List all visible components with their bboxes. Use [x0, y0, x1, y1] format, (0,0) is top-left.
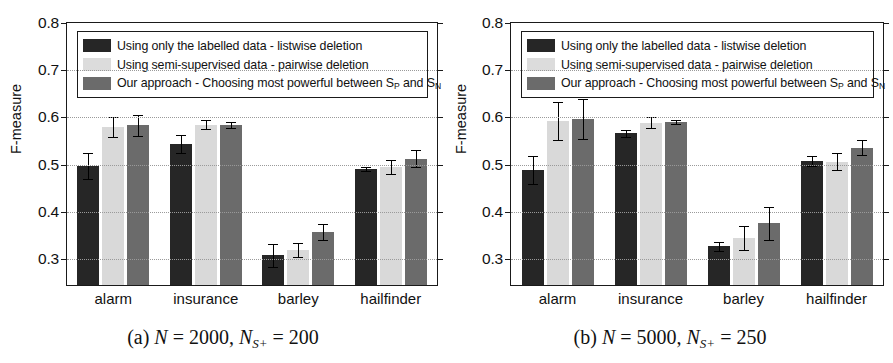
caption-a-ns-value: = 200 [273, 326, 319, 348]
errorbar-cap-alarm-series2-high [133, 115, 143, 116]
gridline-y-0.7 [511, 70, 883, 71]
errorbar-cap-hailfinder-series1-low [832, 170, 842, 171]
errorbar-alarm-series0 [88, 153, 89, 179]
errorbar-cap-alarm-series2-low [578, 139, 588, 140]
errorbar-cap-barley-series1-high [739, 226, 749, 227]
gridline-y-0.6 [67, 117, 437, 118]
y-axis-label-0.8: 0.8 [482, 14, 503, 32]
errorbar-barley-series1 [744, 226, 745, 251]
errorbar-cap-barley-series2-low [764, 240, 774, 241]
errorbar-cap-insurance-series2-high [671, 120, 681, 121]
bar-insurance-series1 [640, 123, 662, 285]
gridline-y-0.5 [67, 165, 437, 166]
y-axis-label-0.8: 0.8 [38, 14, 59, 32]
errorbar-cap-alarm-series1-low [108, 137, 118, 138]
bar-barley-series0 [708, 246, 730, 285]
x-axis-label-hailfinder: hailfinder [806, 290, 867, 307]
errorbar-cap-insurance-series2-high [226, 122, 236, 123]
caption-b-ns-value: = 250 [720, 326, 766, 348]
bar-hailfinder-series1 [380, 167, 402, 285]
legend-b: Using only the labelled data - listwise … [521, 31, 874, 98]
bar-alarm-series2 [127, 125, 149, 285]
errorbar-cap-hailfinder-series1-high [386, 160, 396, 161]
legend-label-2-b: Our approach - Choosing most powerful be… [561, 76, 885, 91]
gridline-y-0.7 [67, 70, 437, 71]
y-axis-label-0.5: 0.5 [38, 156, 59, 174]
errorbar-cap-hailfinder-series0-low [807, 166, 817, 167]
errorbar-cap-insurance-series1-low [646, 128, 656, 129]
gridline-y-0.4 [511, 212, 883, 213]
legend-swatch-1-b [527, 58, 555, 71]
errorbar-cap-insurance-series0-high [621, 130, 631, 131]
y-tick-0.4 [505, 212, 511, 213]
bar-insurance-series2 [665, 122, 687, 285]
caption-a-ns-symbol: N [239, 326, 252, 348]
gridline-y-0.5 [511, 165, 883, 166]
bar-insurance-series0 [615, 133, 637, 285]
y-axis-label-0.6: 0.6 [482, 108, 503, 126]
x-axis-label-alarm: alarm [539, 290, 577, 307]
y-tick-0.5 [61, 165, 67, 166]
y-axis-label-0.4: 0.4 [38, 203, 59, 221]
caption-a: (a) N = 2000, NS+ = 200 [0, 326, 446, 352]
errorbar-cap-alarm-series0-low [528, 184, 538, 185]
legend-a: Using only the labelled data - listwise … [77, 31, 428, 98]
y-axis-label-0.6: 0.6 [38, 108, 59, 126]
y-axis-label-0.7: 0.7 [482, 61, 503, 79]
legend-swatch-2-b [527, 77, 555, 90]
caption-b: (b) N = 5000, NS+ = 250 [447, 326, 893, 352]
y-axis-label-0.7: 0.7 [38, 61, 59, 79]
caption-a-n-value: = 2000, [173, 326, 234, 348]
caption-a-prefix: (a) [127, 326, 149, 348]
errorbar-cap-insurance-series2-low [671, 124, 681, 125]
x-axis-label-barley: barley [723, 290, 764, 307]
errorbar-barley-series0 [273, 244, 274, 267]
y-tick-0.6 [61, 117, 67, 118]
y-tick-0.7 [505, 70, 511, 71]
plot-area-a: Using only the labelled data - listwise … [66, 22, 438, 286]
errorbar-cap-barley-series1-low [293, 257, 303, 258]
gridline-y-0.3 [67, 259, 437, 260]
errorbar-cap-insurance-series2-low [226, 128, 236, 129]
y-tick-0.5 [505, 165, 511, 166]
x-axis-label-alarm: alarm [94, 290, 132, 307]
caption-b-ns-symbol: N [687, 326, 700, 348]
errorbar-cap-barley-series2-low [318, 240, 328, 241]
errorbar-alarm-series2 [583, 99, 584, 140]
y-tick-0.8-right [883, 23, 889, 24]
errorbar-insurance-series1 [206, 120, 207, 129]
errorbar-cap-hailfinder-series0-low [361, 171, 371, 172]
legend-label-0-b: Using only the labelled data - listwise … [561, 39, 806, 53]
y-axis-label-0.5: 0.5 [482, 156, 503, 174]
legend-item-2-b: Our approach - Choosing most powerful be… [527, 74, 868, 93]
errorbar-barley-series0 [719, 242, 720, 250]
gridline-y-0.4 [67, 212, 437, 213]
bar-hailfinder-series1 [826, 162, 848, 285]
bar-hailfinder-series2 [405, 159, 427, 285]
errorbar-cap-hailfinder-series0-high [361, 167, 371, 168]
bar-alarm-series0 [77, 166, 99, 285]
errorbar-hailfinder-series1 [837, 153, 838, 170]
y-tick-0.3-right [437, 259, 443, 260]
legend-item-0-a: Using only the labelled data - listwise … [83, 36, 422, 55]
y-tick-0.3 [61, 259, 67, 260]
caption-b-n-symbol: N [602, 326, 615, 348]
errorbar-cap-hailfinder-series1-high [832, 153, 842, 154]
y-tick-0.6-right [883, 117, 889, 118]
gridline-y-0.6 [511, 117, 883, 118]
legend-swatch-2-a [83, 77, 111, 90]
y-tick-0.3-right [883, 259, 889, 260]
errorbar-insurance-series1 [651, 117, 652, 128]
errorbar-cap-insurance-series0-high [176, 135, 186, 136]
bar-hailfinder-series0 [355, 169, 377, 285]
errorbar-cap-hailfinder-series0-high [807, 156, 817, 157]
legend-swatch-1-a [83, 58, 111, 71]
errorbar-alarm-series1 [113, 117, 114, 137]
y-tick-0.4-right [883, 212, 889, 213]
legend-swatch-0-a [83, 39, 111, 52]
y-tick-0.8 [505, 23, 511, 24]
x-axis-label-hailfinder: hailfinder [360, 290, 421, 307]
errorbar-alarm-series1 [558, 102, 559, 140]
errorbar-cap-barley-series0-low [714, 251, 724, 252]
errorbar-cap-barley-series1-high [293, 243, 303, 244]
